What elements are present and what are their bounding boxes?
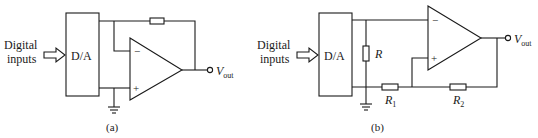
input-label-line2: inputs: [260, 52, 290, 66]
caption-b: (b): [371, 121, 384, 134]
input-arrow-icon: [297, 48, 318, 62]
panel-a: Digital inputs D/A − + Vout (a): [4, 13, 234, 134]
opamp-minus: −: [134, 45, 140, 57]
opamp-plus: +: [133, 82, 139, 94]
converter-label: D/A: [71, 49, 92, 63]
resistor-r2-label: R2: [452, 93, 464, 109]
opamp-minus: −: [432, 14, 438, 26]
resistor-r-label: R: [374, 47, 383, 61]
ground-icon: [108, 107, 120, 113]
inverting-input-wire: [114, 21, 130, 51]
panel-b: Digital inputs D/A R R1 R2 − +: [257, 6, 532, 134]
resistor-r1: [382, 84, 398, 90]
circuit-diagram: Digital inputs D/A − + Vout (a): [0, 0, 538, 138]
vout-label: Vout: [216, 64, 234, 80]
ground-icon: [360, 104, 372, 110]
vout-label: Vout: [514, 32, 532, 48]
input-label-line1: Digital: [4, 38, 38, 52]
caption-a: (a): [106, 121, 119, 134]
opamp-plus: +: [431, 52, 437, 64]
input-label-line2: inputs: [7, 52, 37, 66]
bottom-wire: [352, 38, 497, 87]
resistor-r1-label: R1: [384, 93, 396, 109]
output-terminal: [207, 67, 212, 72]
feedback-resistor: [150, 18, 164, 24]
output-terminal: [505, 35, 510, 40]
resistor-r: [363, 46, 369, 61]
resistor-r2: [450, 84, 466, 90]
input-arrow-icon: [44, 48, 65, 62]
converter-label: D/A: [324, 49, 345, 63]
input-label-line1: Digital: [257, 38, 291, 52]
noninverting-input-wire: [412, 58, 428, 87]
